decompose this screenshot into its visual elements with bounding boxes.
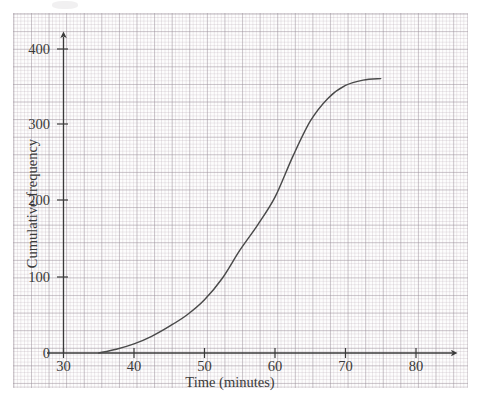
cumulative-frequency-curve xyxy=(99,79,381,353)
cumulative-frequency-chart: 400 300 200 100 0 30 40 50 60 70 80 Cumu… xyxy=(0,0,479,399)
x-tick-label-50: 50 xyxy=(185,359,225,374)
x-tick-label-40: 40 xyxy=(114,359,154,374)
x-tick-label-30: 30 xyxy=(44,359,84,374)
x-tick-label-70: 70 xyxy=(326,359,366,374)
x-tick-label-80: 80 xyxy=(396,359,436,374)
x-axis-title: Time (minutes) xyxy=(140,374,320,391)
plot-area xyxy=(0,0,479,399)
y-tick-label-400: 400 xyxy=(8,42,50,57)
x-tick-label-60: 60 xyxy=(255,359,295,374)
y-axis-ticks xyxy=(57,49,68,277)
y-axis-title: Cumulative frequency xyxy=(24,104,41,304)
